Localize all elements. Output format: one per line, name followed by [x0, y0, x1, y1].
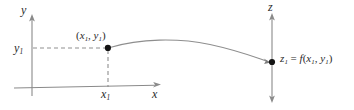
zvalue-equals: =	[288, 52, 300, 64]
point-coordinate-label: (x1, y1)	[76, 30, 106, 41]
x1-tick-label: x1	[101, 88, 110, 100]
zvalue-close-paren: )	[329, 52, 333, 64]
mapping-curve	[110, 40, 267, 61]
point-z-dot	[269, 59, 275, 65]
function-mapping-figure: y y1 x x1 (x1, y1) z z1 = f(x1, y1)	[0, 0, 354, 110]
point-close-paren: )	[102, 29, 106, 41]
x-axis-line	[14, 85, 155, 88]
x-axis-label: x	[152, 88, 157, 100]
point-xy-dot	[105, 45, 111, 51]
y1-tick-label: y1	[14, 42, 23, 54]
y-axis-label: y	[21, 4, 26, 16]
z-value-equation-label: z1 = f(x1, y1)	[280, 53, 332, 64]
y1-subscript: 1	[19, 47, 23, 56]
z-axis-label: z	[268, 1, 273, 13]
x1-subscript: 1	[106, 93, 110, 102]
